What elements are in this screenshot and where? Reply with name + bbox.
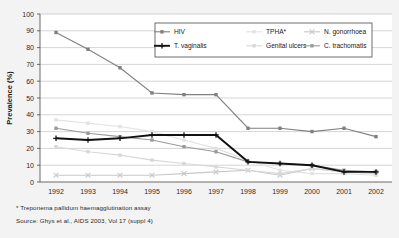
data-point-marker [214, 165, 217, 168]
y-tick-label: 20 [26, 145, 34, 152]
y-tick-label: 80 [26, 44, 34, 51]
y-tick-label: 0 [30, 179, 34, 186]
y-tick-label: 60 [26, 78, 34, 85]
x-tick-label: 2000 [304, 188, 320, 195]
data-point-marker [150, 91, 153, 94]
y-tick-label: 40 [26, 111, 34, 118]
data-point-marker [86, 132, 89, 135]
y-tick-label: 90 [26, 27, 34, 34]
x-tick-label: 1993 [80, 188, 96, 195]
x-tick-label: 1999 [272, 188, 288, 195]
footnote-source: Source: Ghys et al., AIDS 2003, Vol 17 (… [16, 217, 153, 224]
figure-container: 0102030405060708090100 19921993199419951… [0, 0, 399, 238]
data-point-marker [374, 135, 377, 138]
x-tick-label: 2001 [336, 188, 352, 195]
data-point-marker [86, 150, 89, 153]
data-point-marker [246, 127, 249, 130]
x-tick-label: 1996 [176, 188, 192, 195]
data-point-marker [182, 162, 185, 165]
data-point-marker [310, 172, 313, 175]
y-tick-labels-group: 0102030405060708090100 [22, 11, 34, 186]
data-point-marker [118, 66, 121, 69]
data-point-marker [182, 138, 185, 141]
footnote-tpha: * Treponema pallidum haemagglutination a… [16, 204, 151, 211]
legend-label: TPHA* [266, 28, 287, 35]
data-point-marker [118, 153, 121, 156]
legend-label: Genital ulcers [266, 42, 307, 49]
data-point-marker [214, 150, 217, 153]
x-tick-label: 1995 [144, 188, 160, 195]
x-tick-label: 1997 [208, 188, 224, 195]
x-tick-labels-group: 1992199319941995199619971998199920002001… [48, 188, 384, 195]
data-point-marker [86, 48, 89, 51]
x-tick-label: 2002 [368, 188, 384, 195]
data-point-marker [252, 30, 255, 33]
data-point-marker [278, 127, 281, 130]
data-point-marker [214, 93, 217, 96]
y-axis-title: Prevalence (%) [5, 71, 14, 125]
y-tick-label: 70 [26, 61, 34, 68]
data-point-marker [86, 122, 89, 125]
data-point-marker [310, 130, 313, 133]
legend-label: N. gonorrhoea [324, 28, 366, 36]
data-point-marker [310, 44, 313, 47]
legend-label: HIV [174, 28, 186, 35]
prevalence-line-chart: 0102030405060708090100 19921993199419951… [0, 0, 399, 200]
y-tick-label: 10 [26, 162, 34, 169]
data-point-marker [252, 44, 255, 47]
data-point-marker [182, 145, 185, 148]
data-point-marker [214, 147, 217, 150]
legend-label: C. trachomatis [324, 42, 367, 49]
data-point-marker [54, 31, 57, 34]
data-point-marker [150, 158, 153, 161]
y-tick-label: 50 [26, 95, 34, 102]
data-point-marker [278, 172, 281, 175]
y-tick-label: 30 [26, 128, 34, 135]
data-point-marker [278, 169, 281, 172]
data-point-marker [342, 127, 345, 130]
legend-label: T. vaginalis [174, 42, 207, 50]
data-point-marker [54, 127, 57, 130]
data-point-marker [150, 138, 153, 141]
x-tick-label: 1998 [240, 188, 256, 195]
data-point-marker [118, 125, 121, 128]
data-point-marker [246, 169, 249, 172]
data-point-marker [54, 118, 57, 121]
data-point-marker [54, 145, 57, 148]
x-tick-label: 1992 [48, 188, 64, 195]
data-point-marker [182, 93, 185, 96]
x-tick-label: 1994 [112, 188, 128, 195]
y-tick-label: 100 [22, 11, 34, 18]
data-point-marker [160, 30, 163, 33]
